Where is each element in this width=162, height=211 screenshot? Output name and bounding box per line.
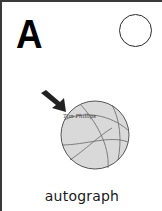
arrow-icon [41, 90, 66, 112]
card-word: autograph [2, 188, 162, 204]
basketball-icon [40, 90, 130, 170]
answer-circle[interactable] [119, 14, 152, 47]
signature-text: Tim Phillips [63, 113, 96, 119]
flashcard: A Tim Phillips autograph [0, 0, 162, 211]
card-letter: A [16, 14, 43, 54]
